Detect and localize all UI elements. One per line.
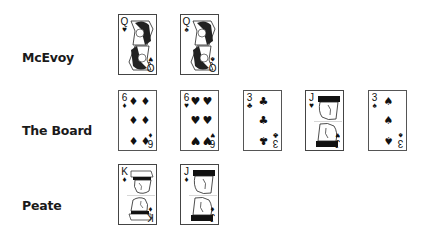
diamond-pip-icon: ♦ <box>140 115 151 126</box>
diamond-pip-icon: ♦ <box>140 96 151 107</box>
club-pip-icon: ♣ <box>258 115 269 126</box>
spade-pip-icon: ♠ <box>383 96 394 107</box>
spade-pip-icon: ♠ <box>383 115 394 126</box>
heart-pip-icon: ♥ <box>190 135 201 146</box>
spade-pip-icon: ♠ <box>383 135 394 146</box>
heart-pip-icon: ♥ <box>190 115 201 126</box>
card-queen-of-hearts: Q♥ Q♥ <box>118 14 157 75</box>
diamond-pip-icon: ♦ <box>128 96 139 107</box>
heart-pip-icon: ♥ <box>190 96 201 107</box>
card-jack-of-hearts: J♥ J♥ <box>305 90 344 151</box>
card-six-of-diamonds: 6♦ ♦ ♦ ♦ ♦ ♦ ♦ 6♦ <box>118 90 157 151</box>
heart-pip-icon: ♥ <box>202 96 213 107</box>
diamond-pip-icon: ♦ <box>128 115 139 126</box>
card-queen-of-spades: Q♠ Q♠ <box>180 14 219 75</box>
card-jack-of-diamonds: J♦ J♦ <box>180 164 219 225</box>
card-three-of-spades: 3♠ ♠ ♠ ♠ 3♠ <box>368 90 407 151</box>
board-label: The Board <box>22 123 92 138</box>
card-three-of-clubs: 3♣ ♣ ♣ ♣ 3♣ <box>243 90 282 151</box>
card-king-of-diamonds: K♦ K♦ <box>118 164 157 225</box>
card-six-of-hearts: 6♥ ♥ ♥ ♥ ♥ ♥ ♥ 6♥ <box>180 90 219 151</box>
player-label-peate: Peate <box>22 198 62 213</box>
club-pip-icon: ♣ <box>258 96 269 107</box>
club-pip-icon: ♣ <box>258 135 269 146</box>
player-label-mcevoy: McEvoy <box>22 50 74 65</box>
diamond-pip-icon: ♦ <box>128 135 139 146</box>
heart-pip-icon: ♥ <box>202 115 213 126</box>
